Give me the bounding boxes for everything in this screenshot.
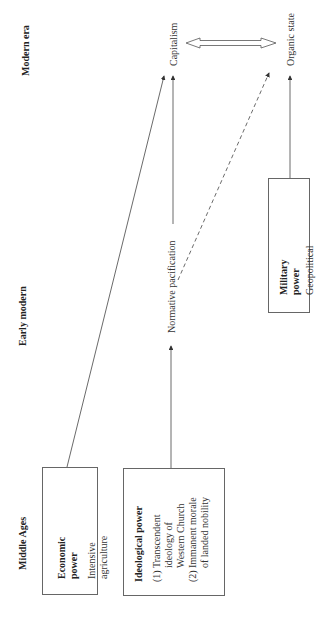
node-capitalism: Capitalism	[168, 23, 179, 66]
edge-normative-to-organic-dashed	[178, 73, 269, 280]
ideological-item-1: (1) Transcendent ideology of Western Chu…	[151, 482, 187, 582]
economic-power-box: Economic power Intensive agriculture	[42, 467, 98, 595]
double-arrow-capitalism-organic	[186, 38, 276, 48]
ideological-power-list: (1) Transcendent ideology of Western Chu…	[151, 482, 211, 582]
economic-power-subtitle: Intensive agriculture	[86, 536, 110, 579]
ideological-item-2: (2) Immanent morale of landed nobility	[187, 482, 211, 582]
military-power-box: Military power Geopolitical competition	[268, 178, 310, 313]
economic-power-title: Economic power	[56, 536, 80, 579]
edge-economic-to-capitalism	[67, 76, 164, 467]
military-power-title: Military power	[278, 246, 302, 295]
era-label-middle-ages: Middle Ages	[17, 517, 28, 570]
node-normative-pacification: Normative pacification	[166, 241, 177, 333]
node-organic-state: Organic state	[285, 13, 296, 66]
era-label-modern: Modern era	[20, 25, 31, 76]
era-label-early-modern: Early modern	[17, 286, 28, 346]
military-power-subtitle: Geopolitical competition	[304, 246, 316, 295]
ideological-power-box: Ideological power (1) Transcendent ideol…	[123, 468, 225, 596]
ideological-power-title: Ideological power	[133, 482, 145, 582]
